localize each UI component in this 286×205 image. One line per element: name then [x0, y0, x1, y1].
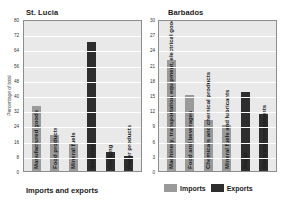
bar-exports[interactable]: [106, 152, 115, 171]
y-axis-tick-label: 21: [150, 63, 155, 68]
y-axis-st-lucia: 80726456484032241680: [1, 20, 21, 172]
chart-legend: Imports Exports: [164, 184, 253, 192]
y-axis-tick-label: 30: [150, 18, 155, 23]
chart-page: St. Lucia Percentage of total 8072645648…: [0, 0, 286, 205]
plot-area-st-lucia: Manufactured goodsFood productsMineral f…: [23, 20, 142, 172]
gridline: [24, 143, 141, 144]
bar-imports[interactable]: [50, 135, 59, 171]
gridline: [159, 112, 276, 113]
y-axis-tick-label: 56: [14, 63, 19, 68]
legend-label-imports: Imports: [180, 185, 206, 192]
y-axis-tick-label: 64: [14, 48, 19, 53]
gridline: [24, 67, 141, 68]
gridline: [159, 36, 276, 37]
bar-exports[interactable]: [87, 42, 96, 171]
legend-label-exports: Exports: [227, 185, 253, 192]
y-axis-tick-label: 27: [150, 33, 155, 38]
legend-item-imports[interactable]: Imports: [164, 184, 206, 192]
y-axis-tick-label: 15: [150, 94, 155, 99]
bar-exports[interactable]: [241, 92, 250, 171]
bar-group-barbados: Machinery, transportation equipment, ele…: [159, 21, 276, 171]
y-axis-tick-label: 48: [14, 78, 19, 83]
bar-slot: Sugar: [236, 21, 255, 171]
y-axis-tick-label: 9: [152, 124, 155, 129]
bar-slot: Manufactured goods: [27, 21, 46, 171]
bar-imports[interactable]: [32, 106, 41, 171]
gridline: [159, 143, 276, 144]
y-axis-tick-label: 24: [14, 124, 19, 129]
y-axis-tick-label: 3: [152, 154, 155, 159]
y-axis-tick-label: 32: [14, 109, 19, 114]
y-axis-tick-label: 40: [14, 94, 19, 99]
bar-imports[interactable]: [167, 60, 176, 171]
gridline: [24, 127, 141, 128]
chart-title-st-lucia: St. Lucia: [26, 8, 58, 17]
y-axis-tick-label: 18: [150, 78, 155, 83]
gridline: [159, 97, 276, 98]
bar-slot: Mineral fuels: [64, 21, 83, 171]
bar-slot: Electrical components: [255, 21, 274, 171]
bar-slot: Machinery, transportation equipment, ele…: [162, 21, 181, 171]
bar-slot: Bananas: [83, 21, 102, 171]
y-axis-tick-label: 72: [14, 33, 19, 38]
bar-slot: Paper products: [120, 21, 139, 171]
gridline: [159, 158, 276, 159]
legend-item-exports[interactable]: Exports: [211, 184, 253, 192]
bar-slot: Food and beverages: [181, 21, 200, 171]
y-axis-tick-label: 16: [14, 139, 19, 144]
bar-slot: Chemicals and chemical products: [199, 21, 218, 171]
gridline: [24, 36, 141, 37]
gridline: [24, 82, 141, 83]
bar-slot: Mineral fuels and lubricants: [218, 21, 237, 171]
chart-panel-barbados: Barbados 302724211815129630 Machinery, t…: [148, 0, 286, 205]
gridline: [159, 67, 276, 68]
gridline: [159, 127, 276, 128]
gridline: [159, 82, 276, 83]
y-axis-tick-label: 12: [150, 109, 155, 114]
gridline: [24, 112, 141, 113]
plot-area-barbados: Machinery, transportation equipment, ele…: [158, 20, 277, 172]
legend-swatch-imports: [164, 184, 177, 192]
y-axis-tick-label: 6: [152, 139, 155, 144]
bar-slot: Food products: [46, 21, 65, 171]
gridline: [24, 158, 141, 159]
y-axis-tick-label: 0: [152, 170, 155, 175]
chart-panel-st-lucia: St. Lucia Percentage of total 8072645648…: [0, 0, 148, 205]
gridline: [24, 97, 141, 98]
y-axis-tick-label: 8: [16, 154, 19, 159]
gridline: [24, 51, 141, 52]
x-axis-label-st-lucia: Imports and exports: [26, 186, 98, 195]
legend-swatch-exports: [211, 184, 224, 192]
gridline: [159, 51, 276, 52]
y-axis-tick-label: 80: [14, 18, 19, 23]
bar-imports[interactable]: [185, 95, 194, 171]
bar-imports[interactable]: [222, 125, 231, 171]
chart-title-barbados: Barbados: [168, 8, 203, 17]
y-axis-barbados: 302724211815129630: [137, 20, 157, 172]
y-axis-tick-label: 0: [16, 170, 19, 175]
bar-slot: Clothing: [101, 21, 120, 171]
y-axis-tick-label: 24: [150, 48, 155, 53]
bar-group-st-lucia: Manufactured goodsFood productsMineral f…: [24, 21, 141, 171]
